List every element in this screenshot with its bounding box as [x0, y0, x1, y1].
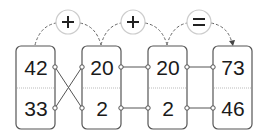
arc-box1-to-plus1 [35, 23, 56, 45]
operator-equals [187, 10, 211, 34]
box-4-bottom-value: 46 [213, 98, 253, 119]
arc-box3-to-equals [167, 23, 187, 45]
connector-dots [53, 65, 215, 110]
arc-plus1-to-box2 [80, 23, 101, 45]
box-2-bottom-value: 2 [82, 98, 122, 119]
operator-plus-2 [121, 10, 145, 34]
arc-box2-to-plus2 [101, 23, 121, 45]
connector-lines [55, 67, 213, 108]
box-4-top-value: 73 [213, 57, 253, 78]
arrowhead-icon [229, 40, 235, 46]
box-3-top-value: 20 [148, 57, 188, 78]
arc-plus2-to-box3 [145, 23, 167, 45]
box-3-bottom-value: 2 [148, 98, 188, 119]
box-1-top-value: 42 [16, 57, 56, 78]
box-1-bottom-value: 33 [16, 98, 56, 119]
box-2-top-value: 20 [82, 57, 122, 78]
arc-equals-to-box4 [211, 23, 232, 43]
operator-plus-1 [56, 10, 80, 34]
